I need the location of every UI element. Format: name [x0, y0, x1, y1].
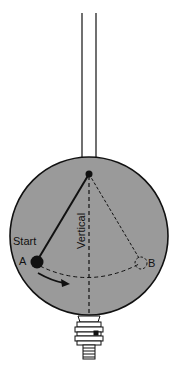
suspension-rods — [82, 13, 96, 158]
label-vertical: Vertical — [75, 213, 87, 249]
label-a: A — [19, 255, 27, 267]
valve-fitting — [75, 316, 103, 359]
label-start: Start — [13, 235, 36, 247]
pivot — [86, 171, 93, 178]
label-b: B — [148, 257, 155, 269]
bob-a — [31, 256, 44, 269]
pendulum-diagram: Start A B Vertical — [0, 0, 177, 380]
